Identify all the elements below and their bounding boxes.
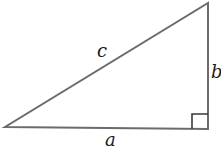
right-triangle-diagram: c b a <box>0 0 221 147</box>
vertical-leg-label: b <box>211 61 221 82</box>
horizontal-leg-label: a <box>105 129 116 147</box>
triangle <box>5 3 208 129</box>
right-angle-marker <box>192 114 208 129</box>
hypotenuse-label: c <box>97 40 107 61</box>
